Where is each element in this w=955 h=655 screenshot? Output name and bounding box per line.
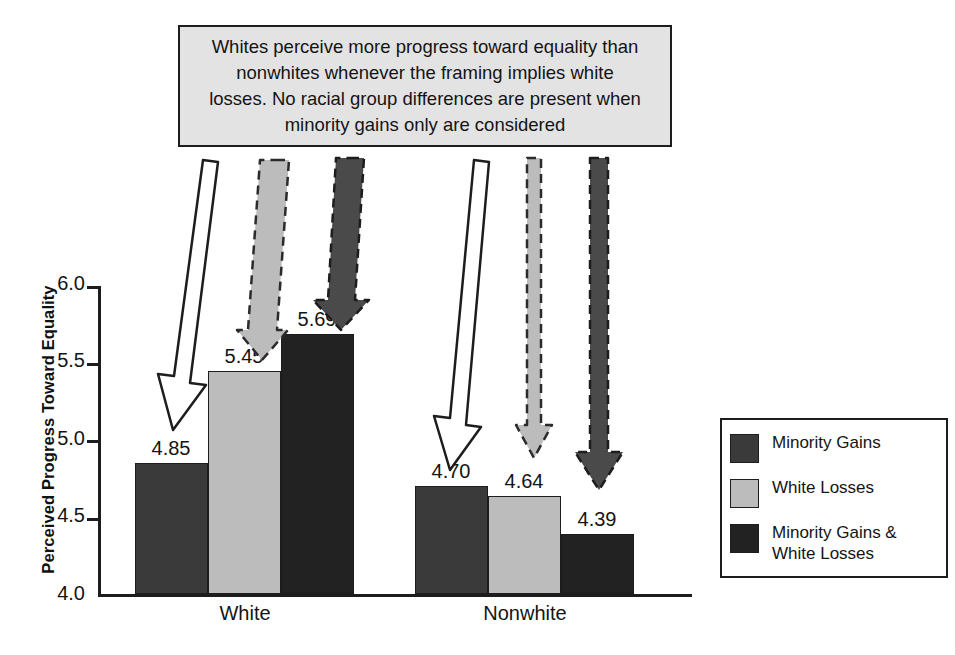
y-tick-label-5-5: 5.5: [33, 349, 85, 372]
y-tick-label-4-5: 4.5: [33, 504, 85, 527]
bar-white-both: [281, 334, 354, 594]
x-tick-label-nonwhite: Nonwhite: [445, 602, 605, 625]
bar-chart-figure: Whites perceive more progress toward equ…: [0, 0, 955, 655]
x-tick-label-white: White: [165, 602, 325, 625]
arrow-white-both-icon: [313, 158, 369, 330]
bar-value-nonwhite-white-losses: 4.64: [484, 470, 564, 493]
y-tick-label-5-0: 5.0: [33, 427, 85, 450]
legend-swatch-white-losses: [730, 479, 759, 508]
bar-white-minority-gains: [135, 463, 208, 594]
bar-value-white-both: 5.69: [277, 308, 357, 331]
annotation-text: Whites perceive more progress toward equ…: [195, 34, 655, 138]
bar-value-nonwhite-minority-gains: 4.70: [411, 460, 491, 483]
legend-item-white-losses: White Losses: [730, 477, 946, 508]
bar-nonwhite-minority-gains: [415, 486, 488, 594]
arrow-nonwhite-minority-gains-icon: [434, 160, 489, 470]
legend-item-minority-gains: Minority Gains: [730, 432, 946, 463]
bar-nonwhite-white-losses: [488, 496, 561, 594]
legend-label-minority-gains: Minority Gains: [772, 432, 881, 453]
legend-item-both: Minority Gains & White Losses: [730, 522, 946, 564]
bar-value-nonwhite-both: 4.39: [557, 508, 637, 531]
legend-label-both: Minority Gains & White Losses: [772, 522, 897, 564]
legend-label-white-losses: White Losses: [772, 477, 874, 498]
legend: Minority Gains White Losses Minority Gai…: [720, 418, 948, 578]
y-axis-line: [98, 286, 101, 597]
legend-swatch-minority-gains: [730, 434, 759, 463]
annotation-callout: Whites perceive more progress toward equ…: [178, 25, 672, 147]
legend-swatch-both: [730, 524, 759, 553]
bar-value-white-minority-gains: 4.85: [131, 437, 211, 460]
bar-nonwhite-both: [561, 534, 634, 594]
bar-white-white-losses: [208, 371, 281, 594]
bar-value-white-white-losses: 5.45: [204, 345, 284, 368]
y-tick-label-4-0: 4.0: [33, 582, 85, 605]
arrow-nonwhite-both-icon: [575, 158, 623, 490]
x-axis-line: [98, 594, 692, 597]
y-tick-label-6-0: 6.0: [33, 272, 85, 295]
arrow-nonwhite-white-losses-icon: [516, 158, 552, 458]
